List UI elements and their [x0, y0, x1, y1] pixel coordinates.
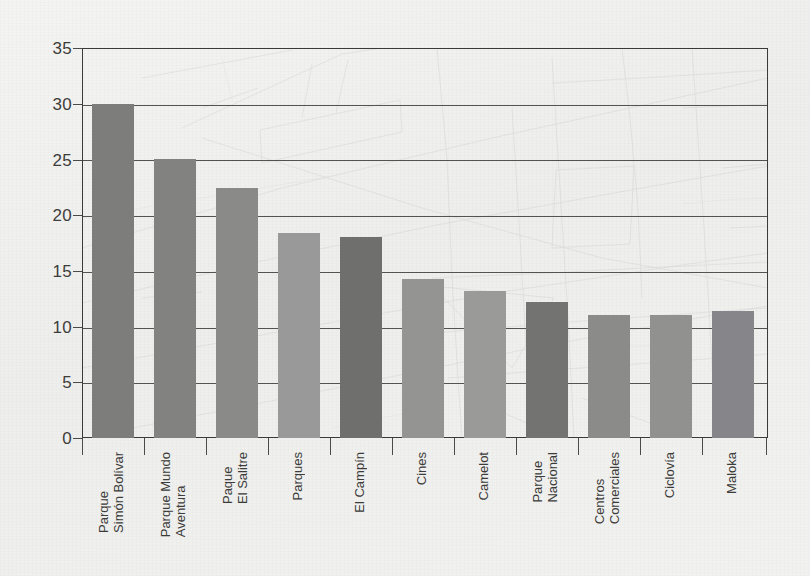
- y-tick-mark-35: [73, 48, 82, 49]
- y-tick-mark-10: [73, 327, 82, 328]
- x-label-camelot: Camelot: [476, 452, 491, 500]
- bar-parques: [278, 233, 320, 438]
- x-label-ciclovia: Ciclovía: [662, 452, 677, 498]
- bar-parque-mundo-aventura: [154, 159, 196, 438]
- y-tick-label-20: 20: [28, 206, 72, 226]
- bar-el-campin: [340, 237, 382, 438]
- y-tick-mark-15: [73, 271, 82, 272]
- bar-parque-nacional: [526, 302, 568, 438]
- x-label-parque-nacional: Parque Nacional: [530, 452, 560, 503]
- x-label-parque-mundo-aventura: Parque Mundo Aventura: [158, 452, 188, 537]
- y-tick-mark-25: [73, 160, 82, 161]
- x-label-parques: Parques: [290, 452, 305, 500]
- x-label-centros-comerciales: Centros Comerciales: [592, 452, 622, 524]
- y-tick-mark-30: [73, 104, 82, 105]
- x-label-paque-el-salitre: Paque El Salitre: [220, 452, 250, 504]
- y-tick-mark-20: [73, 215, 82, 216]
- bar-chart: 35 30 25 20 15 10 5 0: [0, 0, 810, 576]
- y-tick-label-5: 5: [28, 373, 72, 393]
- y-tick-mark-5: [73, 382, 82, 383]
- bar-paque-el-salitre: [216, 188, 258, 438]
- y-tick-label-25: 25: [28, 151, 72, 171]
- y-tick-label-0: 0: [28, 429, 72, 449]
- bar-camelot: [464, 291, 506, 438]
- bar-ciclovia: [650, 315, 692, 438]
- y-tick-label-35: 35: [28, 39, 72, 59]
- y-tick-mark-0: [73, 438, 82, 439]
- y-tick-label-15: 15: [28, 262, 72, 282]
- x-label-el-campin: El Campín: [352, 452, 367, 513]
- x-axis-labels: Parque Simón Bolívar Parque Mundo Aventu…: [82, 452, 768, 572]
- bar-maloka: [712, 311, 754, 438]
- y-tick-label-30: 30: [28, 95, 72, 115]
- scanned-chart-page: 35 30 25 20 15 10 5 0: [0, 0, 810, 576]
- x-label-parque-simon-bolivar: Parque Simón Bolívar: [96, 452, 126, 533]
- x-label-maloka: Maloka: [724, 452, 739, 494]
- x-label-cines: Cines: [414, 452, 429, 485]
- bar-cines: [402, 279, 444, 438]
- y-tick-label-10: 10: [28, 318, 72, 338]
- bar-parque-simon-bolivar: [92, 104, 134, 438]
- bar-centros-comerciales: [588, 315, 630, 438]
- bar-series: [82, 48, 768, 438]
